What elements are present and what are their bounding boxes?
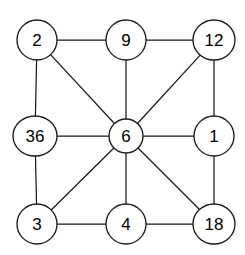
- node-label-4: 4: [121, 215, 130, 234]
- graph-edge-12-6: [137, 55, 200, 123]
- node-label-2: 2: [32, 31, 41, 50]
- node-label-3: 3: [32, 215, 41, 234]
- graph-edge-2-36: [35, 60, 36, 116]
- node-label-12: 12: [205, 31, 224, 50]
- graph-node-1[interactable]: 1: [194, 116, 234, 156]
- node-label-18: 18: [205, 215, 224, 234]
- node-label-6: 6: [121, 127, 130, 146]
- graph-edge-36-3: [35, 156, 36, 204]
- node-label-36: 36: [26, 127, 45, 146]
- graph-node-4[interactable]: 4: [106, 204, 146, 244]
- graph-node-2[interactable]: 2: [17, 20, 57, 60]
- graph-node-18[interactable]: 18: [193, 204, 235, 244]
- node-label-1: 1: [209, 127, 218, 146]
- graph-node-3[interactable]: 3: [17, 204, 57, 244]
- graph-node-12[interactable]: 12: [193, 20, 235, 60]
- graph-node-9[interactable]: 9: [106, 20, 146, 60]
- node-label-9: 9: [121, 31, 130, 50]
- graph-edge-3-6: [51, 148, 114, 210]
- graph-edge-18-6: [138, 148, 200, 210]
- graph-diagram: 291236613418: [0, 0, 245, 255]
- graph-canvas: 291236613418: [0, 0, 245, 255]
- graph-edge-2-6: [51, 55, 115, 124]
- node-layer: 291236613418: [13, 20, 235, 244]
- graph-node-36[interactable]: 36: [13, 116, 57, 156]
- graph-node-6[interactable]: 6: [109, 119, 143, 153]
